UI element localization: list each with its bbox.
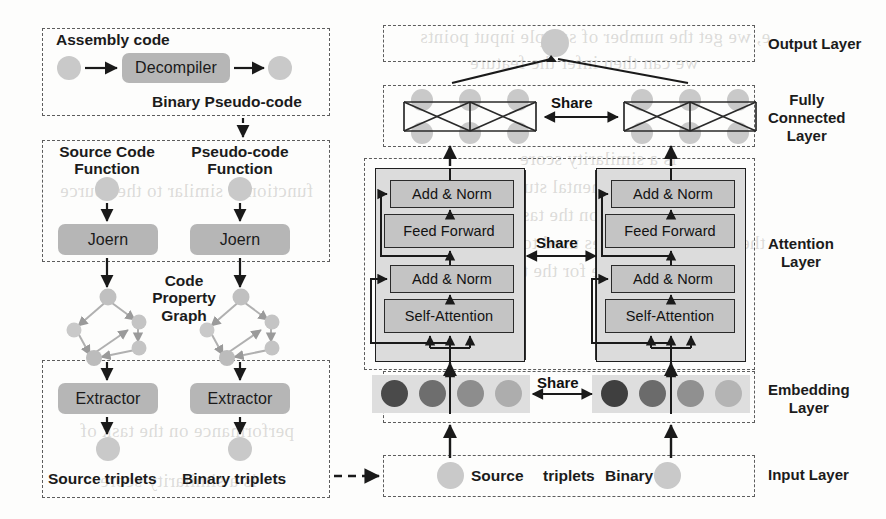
attention-label-line2: Layer — [781, 253, 821, 270]
embedding-layer-label: Embedding Layer — [768, 381, 850, 417]
input-layer-label: Input Layer — [768, 466, 849, 484]
pseudo-code-function-line1: Pseudo-code — [191, 143, 288, 160]
share-label-embedding: Share — [537, 374, 579, 391]
fc-node-l3-bottom — [507, 122, 529, 144]
left-feed-forward: Feed Forward — [384, 214, 514, 248]
fc-label-line3: Layer — [787, 127, 827, 144]
extractor-left-box: Extractor — [58, 383, 158, 414]
attention-layer-label: Attention Layer — [768, 235, 834, 271]
share-label-attention: Share — [536, 234, 578, 251]
input-source-label: Source — [471, 467, 524, 484]
code-property-graph-label: Code Property Graph — [140, 272, 228, 324]
output-node — [541, 29, 569, 57]
pseudo-code-function-label: Pseudo-code Function — [185, 143, 295, 178]
joern-left-box: Joern — [58, 224, 158, 255]
right-add-norm-1: Add & Norm — [611, 265, 735, 293]
left-add-norm-1: Add & Norm — [390, 265, 514, 293]
source-code-function-line2: Function — [74, 160, 139, 177]
fc-node-l1-bottom — [411, 122, 433, 144]
embedding-token-l4 — [495, 380, 522, 407]
attention-label-line1: Attention — [768, 235, 834, 252]
fc-node-l2-bottom — [459, 122, 481, 144]
pseudo-function-node — [228, 177, 252, 201]
joern-right-box: Joern — [190, 224, 290, 255]
assembly-node — [57, 56, 81, 80]
embedding-token-r3 — [677, 380, 704, 407]
right-self-attention: Self-Attention — [605, 299, 735, 333]
embedding-token-r1 — [601, 380, 628, 407]
embedding-token-l1 — [381, 380, 408, 407]
right-feed-forward: Feed Forward — [605, 214, 735, 248]
fc-node-r2-bottom — [679, 122, 701, 144]
left-add-norm-2: Add & Norm — [390, 180, 514, 208]
right-add-norm-2: Add & Norm — [611, 180, 735, 208]
fc-node-l3-top — [507, 89, 529, 111]
embedding-label-line1: Embedding — [768, 381, 850, 398]
input-binary-label: Binary — [605, 467, 653, 484]
share-label-fc: Share — [551, 94, 593, 111]
embedding-token-r4 — [715, 380, 742, 407]
input-triplets-label: triplets — [543, 467, 595, 484]
pseudo-code-function-line2: Function — [207, 160, 272, 177]
fc-node-r1-top — [631, 89, 653, 111]
input-node-binary — [654, 462, 681, 489]
fc-label-line2: Connected — [768, 109, 846, 126]
source-triplets-label: Source triplets — [48, 470, 157, 487]
input-node-source — [437, 462, 464, 489]
source-code-function-line1: Source Code — [59, 143, 155, 160]
fc-node-r1-bottom — [631, 122, 653, 144]
output-layer-label: Output Layer — [768, 35, 861, 53]
left-self-attention: Self-Attention — [384, 299, 514, 333]
cpg-line1: Code — [165, 272, 204, 289]
source-code-function-label: Source Code Function — [55, 143, 159, 178]
fc-node-r2-top — [679, 89, 701, 111]
decompiler-box: Decompiler — [122, 53, 230, 83]
output-layer-box — [383, 25, 755, 62]
fully-connected-layer-label: Fully Connected Layer — [768, 91, 846, 145]
pseudocode-node — [268, 56, 292, 80]
fc-node-l1-top — [411, 89, 433, 111]
embedding-label-line2: Layer — [789, 399, 829, 416]
extractor-right-box: Extractor — [190, 383, 290, 414]
fc-label-line1: Fully — [789, 91, 824, 108]
cpg-line3: Graph — [161, 307, 207, 324]
binary-triplets-node — [228, 437, 252, 461]
figure-canvas: e, we get the number of sample input poi… — [0, 0, 886, 519]
embedding-token-l2 — [419, 380, 446, 407]
source-triplets-node — [96, 437, 120, 461]
embedding-token-l3 — [457, 380, 484, 407]
assembly-code-label: Assembly code — [56, 31, 170, 48]
fc-node-l2-top — [459, 89, 481, 111]
source-function-node — [95, 177, 119, 201]
fc-node-r3-bottom — [727, 122, 749, 144]
binary-triplets-label: Binary triplets — [182, 470, 286, 487]
cpg-line2: Property — [152, 289, 216, 306]
embedding-token-r2 — [639, 380, 666, 407]
fc-node-r3-top — [727, 89, 749, 111]
binary-pseudocode-label: Binary Pseudo-code — [152, 93, 302, 110]
